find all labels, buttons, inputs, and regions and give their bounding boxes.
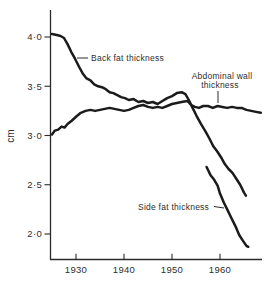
chart-figure: 4·03·53·02·52·01930194019501960 cm Back …	[0, 0, 279, 289]
y-tick-label: 2·5	[27, 179, 42, 190]
y-tick-label: 3·0	[27, 130, 42, 141]
abdominal-wall-thickness-line	[52, 101, 261, 135]
data-series	[52, 34, 261, 247]
axis-ticks: 4·03·53·02·52·01930194019501960	[27, 31, 231, 274]
abdominal-wall-label-line2: thickness	[201, 80, 239, 90]
side-fat-thickness-line	[207, 167, 249, 247]
y-tick-label: 4·0	[27, 31, 42, 42]
side-fat-leader-line	[214, 207, 224, 209]
y-tick-label: 3·5	[27, 81, 42, 92]
y-tick-label: 2·0	[27, 228, 42, 239]
x-tick-label: 1930	[65, 264, 87, 275]
x-tick-label: 1960	[209, 264, 231, 275]
back-fat-label: Back fat thickness	[91, 53, 164, 63]
x-tick-label: 1950	[161, 264, 183, 275]
x-tick-label: 1940	[113, 264, 135, 275]
y-axis-unit-label: cm	[5, 129, 16, 142]
fat-thickness-line-chart: 4·03·53·02·52·01930194019501960 cm Back …	[0, 0, 279, 289]
side-fat-label: Side fat thickness	[138, 202, 209, 212]
